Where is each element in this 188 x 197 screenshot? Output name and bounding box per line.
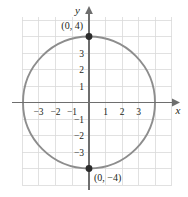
coordinate-plane-figure: y x −3 −2 −1 1 2 3 3 2 1 −1 −2 −3 (0, 4)… [0,0,188,197]
x-tick-label--3: −3 [33,107,43,117]
grid-vertical-lines [22,17,172,185]
y-axis-arrowhead [85,6,93,14]
graph-canvas: y x −3 −2 −1 1 2 3 3 2 1 −1 −2 −3 (0, 4)… [0,0,188,197]
x-axis-label: x [175,104,181,116]
y-tick-label--1: −1 [74,115,84,125]
x-tick-label--2: −2 [50,107,60,117]
x-tick-label-2: 2 [120,107,125,117]
y-tick-label-1: 1 [79,82,84,92]
y-tick-label--2: −2 [74,131,84,141]
point-label-bottom: (0, −4) [94,172,121,184]
point-label-top: (0, 4) [61,20,83,32]
y-axis-label: y [74,4,80,16]
point-marker-bottom [86,165,93,172]
y-tick-label-3: 3 [79,49,84,59]
x-tick-label-1: 1 [103,107,108,117]
x-tick-label-3: 3 [136,107,141,117]
y-tick-label--3: −3 [74,148,84,158]
point-marker-top [86,33,93,40]
y-tick-label-2: 2 [79,65,84,75]
